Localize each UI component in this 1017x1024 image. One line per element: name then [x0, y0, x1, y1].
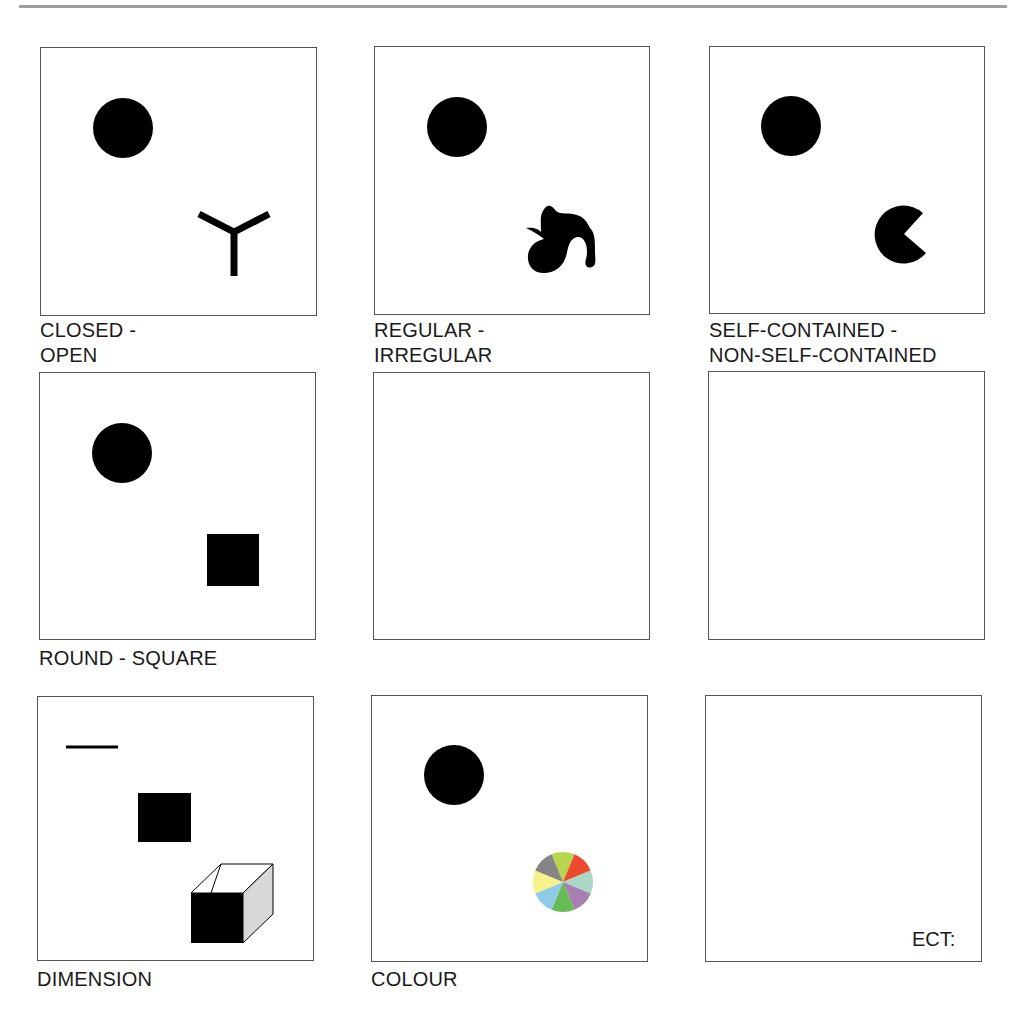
panel-colour	[371, 695, 648, 962]
label-closed-open: CLOSED - OPEN	[40, 318, 136, 368]
ect-label: ECT:	[912, 928, 955, 950]
dimension-figure	[38, 697, 315, 962]
panel-closed-open	[40, 47, 317, 316]
wedge-cut-circle-icon	[875, 206, 926, 264]
self-contained-figure	[710, 47, 986, 315]
filled-circle-icon	[427, 97, 487, 157]
label-round-square: ROUND - SQUARE	[39, 646, 217, 671]
panel-dimension	[37, 696, 314, 961]
filled-circle-icon	[424, 745, 484, 805]
label-dimension: DIMENSION	[37, 967, 152, 992]
panel-self-contained	[709, 46, 985, 314]
label-regular-irregular: REGULAR - IRREGULAR	[374, 318, 493, 368]
top-rule	[19, 5, 1007, 8]
filled-square-icon	[207, 534, 259, 586]
regular-irregular-figure	[375, 47, 651, 316]
irregular-blob-icon	[526, 206, 595, 273]
panel-regular-irregular	[374, 46, 650, 315]
cube-3d-icon	[191, 864, 273, 943]
square-2d-icon	[138, 793, 191, 842]
filled-circle-icon	[92, 423, 152, 483]
label-self-contained: SELF-CONTAINED - NON-SELF-CONTAINED	[709, 318, 937, 368]
panel-round-square	[39, 372, 316, 640]
filled-circle-icon	[761, 96, 821, 156]
colour-figure	[372, 696, 649, 963]
label-colour: COLOUR	[371, 967, 458, 992]
colour-wheel-icon	[533, 852, 593, 912]
panel-empty-2	[708, 371, 985, 640]
panel-empty-1	[373, 372, 650, 640]
filled-circle-icon	[93, 98, 153, 158]
y-shape-icon	[199, 214, 269, 276]
panel-ect: ECT:	[705, 695, 982, 962]
round-square-figure	[40, 373, 317, 641]
closed-open-figure	[41, 48, 318, 317]
